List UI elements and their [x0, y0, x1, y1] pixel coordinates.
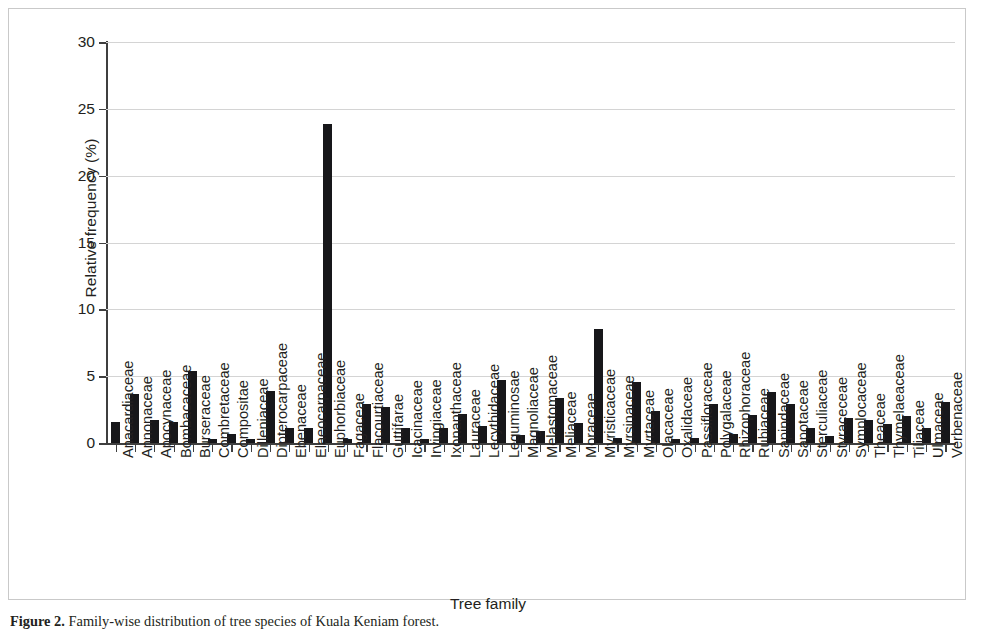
figure-caption-text: Family-wise distribution of tree species… [69, 613, 439, 629]
x-axis-tick-mark [270, 444, 271, 452]
x-axis-tick-mark [830, 444, 831, 452]
x-axis-tick-mark [231, 444, 232, 452]
x-axis-tick-mark [617, 444, 618, 452]
x-axis-tick-label: Bombacaceae [179, 365, 194, 458]
x-axis-tick-label: Apocynaceae [159, 370, 174, 458]
gridline [106, 243, 955, 244]
x-axis-tick-label: Polygalaceae [719, 370, 734, 458]
x-axis-tick-label: Anacardiaceae [121, 361, 136, 458]
x-axis-tick-mark [849, 444, 850, 452]
x-axis-tick-mark [579, 444, 580, 452]
x-axis-tick-label: Icacinaceae [410, 380, 425, 458]
x-axis-tick-label: Guttifarae [391, 394, 406, 458]
x-axis-tick-label: Thymelaeaceae [892, 354, 907, 458]
x-axis-tick-mark [752, 444, 753, 452]
x-axis-tick-mark [637, 444, 638, 452]
x-axis-tick-mark [386, 444, 387, 452]
x-axis-tick-label: Combretaceae [217, 362, 232, 458]
x-axis-tick-label: Magnoliaceae [526, 367, 541, 458]
x-axis-tick-mark [791, 444, 792, 452]
x-axis-tick-mark [945, 444, 946, 452]
x-axis-tick-label: Euphorbiaceae [333, 360, 348, 458]
x-axis-tick-mark [309, 444, 310, 452]
y-axis-tick-mark [99, 42, 106, 44]
x-axis-tick-label: Myristicaceae [603, 369, 618, 458]
y-axis-tick-mark [99, 443, 106, 445]
gridline [106, 109, 955, 110]
x-axis-tick-label: Lauraceae [468, 389, 483, 458]
x-axis-tick-label: Sapotaceae [796, 380, 811, 458]
y-axis-tick-mark [99, 109, 106, 111]
figure-caption: Figure 2. Family-wise distribution of tr… [10, 612, 970, 631]
x-axis-tick-label: Compositae [236, 380, 251, 458]
y-axis-tick-mark [99, 176, 106, 178]
x-axis-tick-label: Moraceae [584, 393, 599, 458]
x-axis-tick-mark [521, 444, 522, 452]
x-axis-tick-label: Olacaceae [661, 388, 676, 458]
x-axis-tick-mark [695, 444, 696, 452]
chart-frame: Relative frequency (%) 051015202530 Anac… [8, 8, 966, 600]
x-axis-tick-mark [444, 444, 445, 452]
x-axis-tick-label: Meliaceae [564, 391, 579, 458]
x-axis-tick-label: Theaceae [873, 393, 888, 458]
y-axis-tick-label-text: 30 [55, 34, 95, 50]
x-axis-tick-mark [868, 444, 869, 452]
x-axis-tick-label: Tiliaceae [912, 400, 927, 458]
x-axis-tick-mark [212, 444, 213, 452]
x-axis-tick-label: Myrsinaceae [622, 375, 637, 458]
x-axis-tick-mark [174, 444, 175, 452]
x-axis-tick-label: Rubiaceae [757, 388, 772, 458]
gridline [106, 309, 955, 310]
bar [111, 422, 120, 443]
figure-caption-label: Figure 2. [10, 613, 65, 629]
x-axis-tick-mark [328, 444, 329, 452]
x-axis-tick-mark [482, 444, 483, 452]
x-axis-tick-mark [887, 444, 888, 452]
x-axis-tick-label: Dilleniaceae [256, 378, 271, 458]
x-axis-tick-mark [502, 444, 503, 452]
x-axis-tick-label: Verbenaceae [950, 372, 965, 458]
x-axis-tick-mark [289, 444, 290, 452]
x-axis-tick-label: Symplocaceae [854, 362, 869, 458]
x-axis-tick-label: Ebenaceae [294, 384, 309, 458]
x-axis-tick-label: Lecythidaceae [487, 364, 502, 458]
y-axis-tick-label-text: 0 [55, 435, 95, 451]
x-axis-tick-label: Ulmaceae [931, 392, 946, 458]
x-axis-tick-label: Dipterocarpaceae [275, 343, 290, 458]
x-axis-tick-label: Leguminosae [507, 370, 522, 458]
y-axis-tick-mark [99, 309, 106, 311]
x-axis-tick-mark [772, 444, 773, 452]
x-axis-tick-mark [926, 444, 927, 452]
x-axis-tick-label: Irvingiaceae [429, 379, 444, 458]
x-axis-tick-mark [598, 444, 599, 452]
x-axis-tick-label: Rhizophoraceae [738, 352, 753, 458]
x-axis-tick-mark [251, 444, 252, 452]
x-axis-tick-label: Ixonanthaceae [449, 362, 464, 458]
x-axis-tick-mark [135, 444, 136, 452]
y-axis-tick-label-text: 15 [55, 235, 95, 251]
gridline [106, 42, 955, 43]
x-axis-tick-mark [714, 444, 715, 452]
x-axis-tick-label: Flacourtiaceae [371, 362, 386, 458]
x-axis-tick-mark [733, 444, 734, 452]
x-axis-tick-mark [907, 444, 908, 452]
x-axis-tick-label: Sapindaceae [777, 373, 792, 458]
x-axis-tick-label: Elaeocarpaceae [314, 353, 329, 458]
x-axis-tick-mark [463, 444, 464, 452]
x-axis-tick-label: Passifloraceae [700, 362, 715, 458]
x-axis-tick-mark [405, 444, 406, 452]
x-axis-tick-mark [424, 444, 425, 452]
x-axis-tick-mark [193, 444, 194, 452]
y-axis-tick-mark [99, 243, 106, 245]
x-axis-tick-mark [559, 444, 560, 452]
y-axis-tick-label-text: 5 [55, 368, 95, 384]
x-axis-tick-label: Sterculiaceae [815, 370, 830, 458]
y-axis-tick-label-text: 20 [55, 168, 95, 184]
x-axis-tick-label: Styraceceae [835, 377, 850, 458]
x-axis-tick-mark [540, 444, 541, 452]
x-axis-tick-mark [116, 444, 117, 452]
x-axis-tick-mark [810, 444, 811, 452]
y-axis-tick-label-text: 25 [55, 101, 95, 117]
gridline [106, 176, 955, 177]
x-axis-tick-label: Melastomaceae [545, 355, 560, 458]
